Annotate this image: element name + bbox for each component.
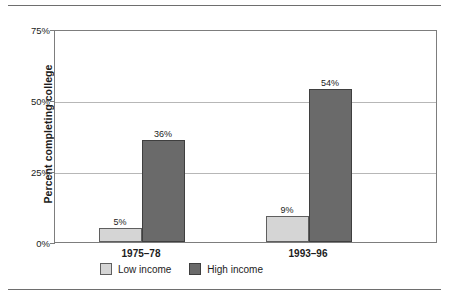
- y-tick-label-75: 75%: [10, 25, 50, 36]
- y-tick-label-50: 50%: [10, 96, 50, 107]
- top-divider-rule: [8, 5, 441, 6]
- y-tick-label-25: 25%: [10, 167, 50, 178]
- gridline-25: [55, 173, 436, 174]
- y-tick-mark-0: [50, 243, 55, 244]
- bar-value-high-income-1975-78: 36%: [154, 129, 172, 139]
- x-category-label-1993-96: 1993–96: [289, 248, 328, 259]
- legend-swatch-high-income-icon: [189, 263, 201, 275]
- y-axis-title: Percent completing college: [42, 24, 54, 244]
- bottom-divider-rule: [8, 289, 441, 290]
- legend-swatch-low-income-icon: [100, 263, 112, 275]
- legend-label-low-income: Low income: [118, 264, 171, 275]
- legend-label-high-income: High income: [207, 264, 263, 275]
- legend-item-low-income[interactable]: Low income: [100, 263, 171, 275]
- bar-low-income-1993-96[interactable]: [266, 216, 309, 242]
- gridline-50: [55, 102, 436, 103]
- bar-value-high-income-1993-96: 54%: [321, 78, 339, 88]
- bar-high-income-1993-96[interactable]: [309, 89, 352, 242]
- legend-item-high-income[interactable]: High income: [189, 263, 263, 275]
- y-tick-label-0: 0%: [10, 238, 50, 249]
- bar-high-income-1975-78[interactable]: [142, 140, 185, 242]
- chart-legend: Low income High income: [100, 263, 263, 275]
- bar-value-low-income-1975-78: 5%: [113, 217, 126, 227]
- plot-area: 5% 36% 9% 54%: [54, 30, 437, 243]
- x-category-label-1975-78: 1975–78: [122, 248, 161, 259]
- chart-figure: Percent completing college 75% 50% 25% 0…: [0, 0, 449, 301]
- bar-value-low-income-1993-96: 9%: [280, 205, 293, 215]
- bar-low-income-1975-78[interactable]: [99, 228, 142, 242]
